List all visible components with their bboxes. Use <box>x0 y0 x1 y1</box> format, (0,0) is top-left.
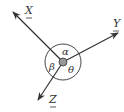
center-point <box>59 58 67 66</box>
angle-beta-label: β <box>48 61 55 72</box>
vector-y-arrow <box>63 33 118 62</box>
angle-alpha-label: α <box>62 46 69 57</box>
vector-z-label: Z <box>48 93 57 106</box>
vector-y-label: Y <box>113 17 122 30</box>
vector-x-arrow <box>13 12 63 62</box>
vector-x-label: X <box>24 4 34 17</box>
angle-theta-label: θ <box>68 64 74 75</box>
vector-diagram: X Y Z α β θ <box>0 0 124 112</box>
